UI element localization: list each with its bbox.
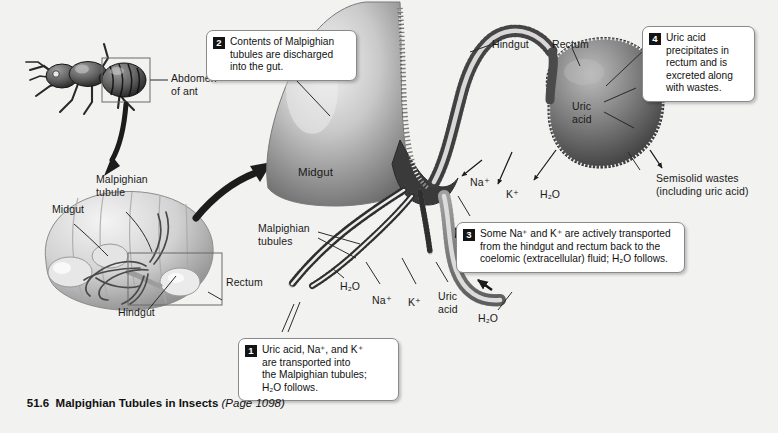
callout-1-leader [288,302,300,332]
callout-3-number: 3 [463,229,475,241]
label-semisolid-wastes: Semisolid wastes (including uric acid) [656,172,749,197]
figure-title: Malpighian Tubules in Insects [56,397,219,409]
callout-2[interactable]: 2 Contents of Malpighian tubules are dis… [206,30,357,81]
label-hindgut-abdomen: Hindgut [118,306,155,319]
label-rectum-main: Rectum [552,38,589,51]
ant-to-abdomen-arrow [112,104,126,160]
callout-1-leader-b [282,304,294,332]
callout-3-leader [458,196,470,216]
callout-2-number: 2 [213,37,225,49]
label-h2o-lower-right: H₂O [478,312,498,325]
label-malpighian-tubule: Malpighian tubule [96,173,148,198]
abdomen-to-main-arrow [196,172,258,218]
figure-root: Abdomen of ant Malpighian tubule Midgut … [0,0,778,433]
label-uric-acid-in-rectum: Uric acid [572,100,592,125]
callout-4-text: Uric acid precipitates in rectum and is … [666,32,733,95]
semisolid-wastes-arrow [650,150,662,168]
label-hindgut-main: Hindgut [492,38,529,51]
callout-3-text: Some Na⁺ and K⁺ are actively transported… [480,228,671,266]
label-midgut-main: Midgut [298,166,333,179]
callout-3[interactable]: 3 Some Na⁺ and K⁺ are actively transport… [456,222,685,273]
label-midgut-abdomen: Midgut [52,203,84,216]
callout-2-text: Contents of Malpighian tubules are disch… [230,36,334,74]
label-h2o-lower-left: H₂O [340,280,360,293]
figure-number: 51.6 [27,397,49,409]
figure-page-ref: (Page 1098) [222,397,285,409]
callout-4-number: 4 [649,33,661,45]
label-k-upper: K⁺ [506,188,519,201]
label-uric-acid-lower: Uric acid [438,290,458,315]
label-na-upper: Na⁺ [470,176,490,189]
label-malpighian-tubules-main: Malpighian tubules [258,222,310,247]
label-h2o-upper: H₂O [540,188,560,201]
callout-4[interactable]: 4 Uric acid precipitates in rectum and i… [642,26,755,102]
figure-caption: 51.6 Malpighian Tubules in Insects (Page… [14,385,285,421]
callout-1-number: 1 [245,345,257,357]
label-k-lower: K⁺ [408,296,421,309]
label-rectum-abdomen: Rectum [226,276,263,289]
label-na-lower: Na⁺ [372,294,392,307]
